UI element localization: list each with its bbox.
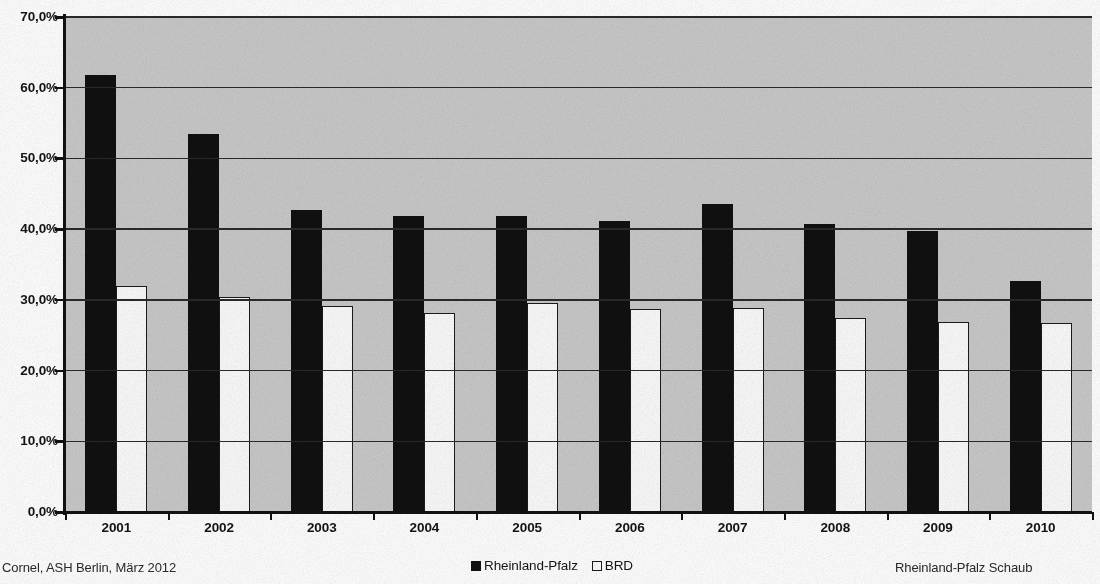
x-axis-tick-label-2010: 2010 [1026, 521, 1056, 535]
y-axis-tick-mark [55, 299, 64, 302]
x-axis-tick-label-2008: 2008 [820, 521, 850, 535]
figure-footer: Cornel, ASH Berlin, März 2012 Rheinland-… [0, 560, 1100, 584]
bar-2006-brd [630, 309, 661, 512]
x-axis-tick-mark [476, 512, 478, 520]
x-axis-tick-label-2004: 2004 [410, 521, 440, 535]
bar-2006-rheinland-pfalz [599, 221, 630, 512]
bar-2010-rheinland-pfalz [1010, 281, 1041, 512]
y-axis-tick-label: 40,0% [0, 222, 58, 236]
bar-2007-brd [733, 308, 764, 512]
y-axis-tick-label: 0,0% [0, 505, 58, 519]
bar-2002-rheinland-pfalz [188, 134, 219, 512]
bar-2009-brd [938, 322, 969, 512]
x-axis-tick-labels: 2001200220032004200520062007200820092010 [65, 521, 1092, 543]
x-axis-tick-mark [681, 512, 683, 520]
x-axis-tick-mark [168, 512, 170, 520]
x-axis-tick-mark [989, 512, 991, 520]
x-axis-tick-label-2006: 2006 [615, 521, 645, 535]
bar-2009-rheinland-pfalz [907, 231, 938, 512]
y-axis-tick-mark [55, 87, 64, 90]
bar-2007-rheinland-pfalz [702, 204, 733, 512]
bar-2008-rheinland-pfalz [804, 224, 835, 512]
x-axis-tick-mark [579, 512, 581, 520]
bar-2001-brd [116, 286, 147, 512]
gridline [65, 228, 1092, 230]
bar-2010-brd [1041, 323, 1072, 512]
y-axis-tick-label: 60,0% [0, 81, 58, 95]
bar-2004-rheinland-pfalz [393, 216, 424, 512]
footer-region-caption: Rheinland-Pfalz Schaub [895, 560, 1032, 575]
y-axis-tick-mark [55, 440, 64, 443]
y-axis-tick-label: 70,0% [0, 10, 58, 24]
y-axis-tick-mark [55, 228, 64, 231]
bar-2001-rheinland-pfalz [85, 75, 116, 512]
bar-group-container [65, 17, 1092, 512]
y-axis-tick-mark [55, 157, 64, 160]
gridline [65, 16, 1092, 18]
x-axis-tick-mark [887, 512, 889, 520]
gridline [65, 441, 1092, 443]
y-axis-tick-mark [55, 511, 64, 514]
gridline [65, 87, 1092, 89]
x-axis-tick-mark [65, 512, 67, 520]
plot-area [65, 17, 1092, 512]
x-axis-tick-mark [373, 512, 375, 520]
x-axis-tick-mark [270, 512, 272, 520]
x-axis-tick-label-2007: 2007 [718, 521, 748, 535]
x-axis-line [63, 511, 1092, 514]
gridline [65, 370, 1092, 372]
gridline [65, 299, 1092, 301]
gridline [65, 158, 1092, 160]
bar-2005-brd [527, 303, 558, 512]
x-axis-tick-label-2005: 2005 [512, 521, 542, 535]
x-axis-tick-mark [1092, 512, 1094, 520]
x-axis-tick-label-2003: 2003 [307, 521, 337, 535]
x-axis-tick-label-2001: 2001 [102, 521, 132, 535]
y-axis-tick-label: 10,0% [0, 435, 58, 449]
x-axis-tick-label-2009: 2009 [923, 521, 953, 535]
y-axis-tick-label: 30,0% [0, 293, 58, 307]
bar-chart-figure: 0,0%10,0%20,0%30,0%40,0%50,0%60,0%70,0% … [0, 0, 1100, 584]
y-axis-tick-labels: 0,0%10,0%20,0%30,0%40,0%50,0%60,0%70,0% [0, 0, 58, 584]
bar-2003-brd [322, 306, 353, 512]
bar-2005-rheinland-pfalz [496, 216, 527, 512]
bar-2004-brd [424, 313, 455, 512]
y-axis-tick-label: 50,0% [0, 152, 58, 166]
bar-2002-brd [219, 297, 250, 512]
bar-2008-brd [835, 318, 866, 512]
bar-2003-rheinland-pfalz [291, 210, 322, 512]
footer-source-credit: Cornel, ASH Berlin, März 2012 [2, 560, 176, 575]
y-axis-tick-mark [55, 16, 64, 19]
y-axis-tick-label: 20,0% [0, 364, 58, 378]
y-axis-tick-mark [55, 370, 64, 373]
x-axis-tick-label-2002: 2002 [204, 521, 234, 535]
x-axis-tick-mark [784, 512, 786, 520]
